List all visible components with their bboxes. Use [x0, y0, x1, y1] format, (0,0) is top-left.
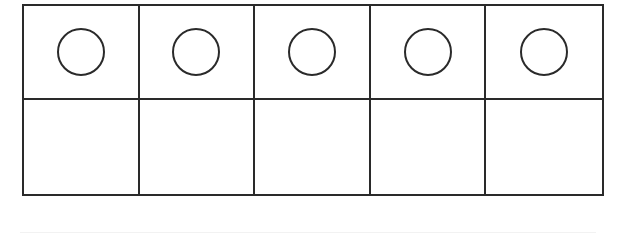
circle-counter-icon: [172, 28, 220, 76]
circle-counter-icon: [57, 28, 105, 76]
frame-cell-r1-c3: [255, 6, 371, 100]
frame-cell-r1-c4: [371, 6, 487, 100]
frame-cell-r2-c2: [140, 100, 256, 194]
circle-counter-icon: [520, 28, 568, 76]
frame-cell-r2-c1: [24, 100, 140, 194]
frame-cell-r2-c5: [486, 100, 602, 194]
frame-cell-r1-c2: [140, 6, 256, 100]
circle-counter-icon: [404, 28, 452, 76]
circle-counter-icon: [288, 28, 336, 76]
frame-cell-r2-c3: [255, 100, 371, 194]
frame-cell-r1-c5: [486, 6, 602, 100]
ten-frame: [22, 4, 604, 196]
frame-cell-r1-c1: [24, 6, 140, 100]
frame-cell-r2-c4: [371, 100, 487, 194]
divider: [20, 232, 596, 233]
